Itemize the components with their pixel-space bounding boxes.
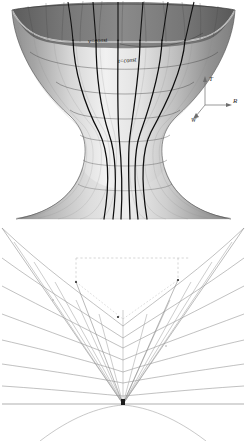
spacetime-diagram-figure: horizon A₁ A₀ A r=const r=const t=const …: [0, 222, 247, 441]
t-const-rays: [14, 242, 232, 404]
hyperboloid-svg: [0, 0, 247, 222]
point-A1-dot: [75, 281, 77, 283]
vertex-marker: [121, 399, 125, 405]
horizon-dashed-construction: [76, 258, 190, 282]
spacetime-svg: [0, 222, 247, 441]
hyperboloid-surface: [12, 2, 235, 219]
curve-tick-dots: [52, 299, 166, 346]
lower-hyperbola: [40, 405, 206, 441]
axis-W-line: [196, 105, 205, 116]
hyperboloid-embedding-figure: v=const t=const T R W: [0, 0, 247, 222]
construction-rays: [76, 280, 178, 404]
figure-page: v=const t=const T R W: [0, 0, 247, 441]
point-A0-dot: [177, 279, 179, 281]
point-A-dashed-chords: [76, 280, 178, 319]
point-A-dot: [117, 316, 119, 318]
axis-R-arrow: [226, 103, 232, 107]
